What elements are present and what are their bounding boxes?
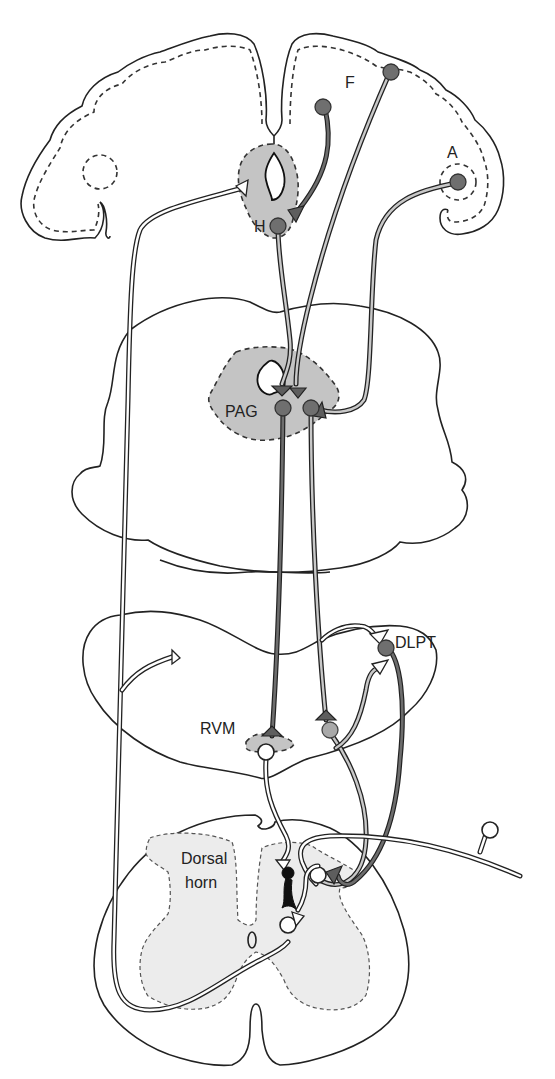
pag-soma-1	[275, 400, 291, 416]
label-dlpt: DLPT	[395, 634, 436, 651]
label-dorsal-horn-1: Dorsal	[181, 850, 227, 867]
dlpt-soma	[378, 640, 394, 656]
dorsal-root-ganglion-soma	[482, 822, 498, 838]
longitudinal-fissure	[266, 120, 282, 145]
label-frontal: F	[345, 74, 355, 91]
amygdala-soma	[450, 174, 466, 190]
hypothalamus-nucleus	[238, 144, 298, 238]
medulla-mid-soma	[322, 722, 338, 738]
pain-modulation-diagram: F A H PAG DLPT RVM Dorsal horn	[0, 0, 555, 1079]
frontal-soma-1	[315, 99, 331, 115]
rvm-soma	[258, 744, 274, 760]
left-hemisphere-outline	[21, 34, 266, 241]
forebrain-section	[21, 34, 504, 241]
label-hypothalamus: H	[254, 218, 266, 235]
interneuron-soma	[282, 867, 294, 879]
label-rvm: RVM	[200, 720, 235, 737]
frontal-soma-2	[383, 64, 399, 80]
hypothalamus-soma	[270, 218, 286, 234]
pag-soma-2	[303, 400, 319, 416]
label-pag: PAG	[225, 403, 258, 420]
label-amygdala: A	[447, 144, 458, 161]
label-dorsal-horn-2: horn	[185, 874, 217, 891]
spinal-cord-section	[94, 815, 409, 1065]
